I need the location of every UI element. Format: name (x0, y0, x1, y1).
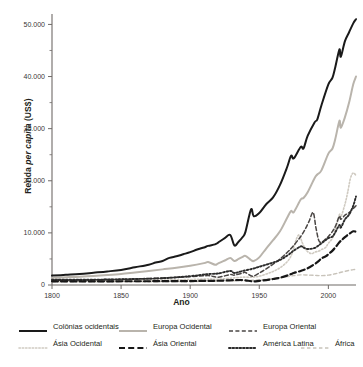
legend-item[interactable]: Colônias ocidentais (18, 318, 119, 335)
series-line (52, 173, 356, 281)
y-tick-label: 0 (41, 281, 45, 288)
legend-swatch-icon (18, 339, 48, 349)
chart-figure: Renda per capita (US$) 010.00020.00030.0… (0, 0, 363, 367)
series-group (52, 19, 356, 282)
series-line (52, 206, 356, 281)
y-tick-label: 20.000 (24, 177, 46, 184)
plot-area: 010.00020.00030.00040.00050.000 18001850… (0, 0, 363, 300)
legend-label: Ásia Oriental (153, 339, 196, 348)
x-axis-title: Ano (0, 297, 363, 307)
y-tick-label: 40.000 (24, 73, 46, 80)
legend-row: Colônias ocidentaisEuropa OcidentalEurop… (0, 318, 363, 335)
legend-item[interactable]: Europa Oriental (228, 318, 316, 335)
legend-swatch-icon (118, 339, 148, 349)
legend-swatch-icon (228, 339, 258, 349)
y-tick-label: 50.000 (24, 21, 46, 28)
legend-row: Ásia OcidentalÁsia OrientalAmérica Latin… (0, 335, 363, 352)
legend-label: Europa Ocidental (153, 322, 212, 331)
legend-swatch-icon (228, 322, 258, 332)
series-line (52, 19, 356, 275)
legend-item[interactable]: África (300, 335, 354, 352)
legend-swatch-icon (300, 339, 330, 349)
y-tick-label: 30.000 (24, 125, 46, 132)
legend-item[interactable]: Europa Ocidental (118, 318, 212, 335)
legend-label: Colônias ocidentais (53, 322, 119, 331)
legend-swatch-icon (118, 322, 148, 332)
y-tick-label: 10.000 (24, 229, 46, 236)
legend-label: Europa Oriental (263, 322, 316, 331)
legend-label: Ásia Ocidental (53, 339, 102, 348)
legend-item[interactable]: Ásia Ocidental (18, 335, 102, 352)
y-axis-ticks: 010.00020.00030.00040.00050.000 (24, 21, 52, 289)
legend-swatch-icon (18, 322, 48, 332)
legend-label: África (335, 339, 354, 348)
legend-item[interactable]: Ásia Oriental (118, 335, 196, 352)
chart-legend: Colônias ocidentaisEuropa OcidentalEurop… (0, 318, 363, 360)
